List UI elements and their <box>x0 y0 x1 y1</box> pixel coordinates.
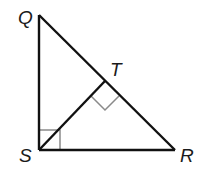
label-t: T <box>110 59 123 80</box>
label-s: S <box>19 145 32 166</box>
segment-st <box>39 81 105 150</box>
triangle-diagram: Q T S R <box>0 0 205 172</box>
label-q: Q <box>18 7 33 28</box>
label-r: R <box>180 145 194 166</box>
right-angle-marker-t <box>91 96 119 110</box>
